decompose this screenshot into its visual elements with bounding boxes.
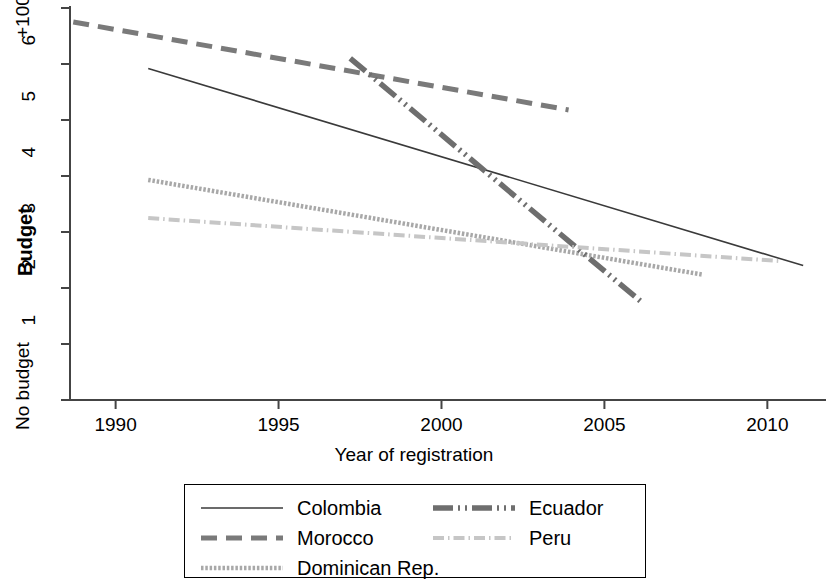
series-line-dominican-rep	[148, 180, 702, 275]
series-line-morocco	[73, 22, 568, 110]
solid-line-key	[201, 499, 283, 517]
y-tick-label: 1	[18, 315, 40, 373]
legend-label: Colombia	[297, 498, 381, 518]
chart-plot-area: Budget No budget123456+100.000 199019952…	[0, 0, 828, 470]
dash-dot-dot-line-key	[433, 499, 515, 517]
fine-dash-line-key	[201, 559, 283, 577]
y-tick-label: No budget	[12, 372, 34, 430]
y-tick-label: 6	[18, 35, 40, 93]
dashed-line-key	[201, 529, 283, 547]
y-tick-label: +100.000	[12, 0, 34, 38]
x-tick-label: 2005	[564, 414, 644, 436]
y-tick-label: 3	[18, 203, 40, 261]
legend-entry: Ecuador	[433, 493, 604, 523]
y-tick-label: 4	[18, 147, 40, 205]
legend-entry: Morocco	[201, 523, 374, 553]
legend-entry: Peru	[433, 523, 571, 553]
x-tick-label: 2010	[727, 414, 807, 436]
x-tick-label: 2000	[401, 414, 481, 436]
chart-legend: ColombiaEcuadorMoroccoPeruDominican Rep.	[184, 484, 646, 578]
legend-label: Morocco	[297, 528, 374, 548]
axes-layer	[61, 6, 826, 409]
y-tick-label: 5	[18, 91, 40, 149]
legend-label: Peru	[529, 528, 571, 548]
x-tick-label: 1995	[239, 414, 319, 436]
y-tick-label: 2	[18, 259, 40, 317]
legend-label: Dominican Rep.	[297, 558, 439, 578]
chart-root: Budget No budget123456+100.000 199019952…	[0, 0, 828, 585]
series-line-peru	[148, 218, 780, 261]
legend-entries: ColombiaEcuadorMoroccoPeruDominican Rep.	[185, 485, 645, 577]
legend-entry: Colombia	[201, 493, 381, 523]
legend-label: Ecuador	[529, 498, 604, 518]
legend-entry: Dominican Rep.	[201, 553, 439, 583]
series-layer	[73, 22, 803, 301]
x-axis-title: Year of registration	[0, 444, 828, 466]
dash-dot-line-key	[433, 529, 515, 547]
line-chart-svg	[0, 0, 828, 470]
x-tick-label: 1990	[76, 414, 156, 436]
